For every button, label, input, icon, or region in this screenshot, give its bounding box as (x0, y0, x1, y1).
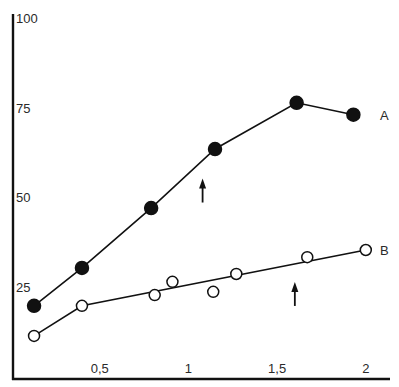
data-point-A (290, 96, 303, 109)
arrow-icon-A (199, 179, 206, 203)
arrow-icon-B (291, 282, 298, 306)
x-tick-label: 1 (185, 361, 192, 376)
x-tick-label: 2 (362, 361, 369, 376)
data-point-A (347, 108, 360, 121)
y-tick-label: 75 (16, 101, 30, 116)
data-point-A (145, 202, 158, 215)
data-point-B (302, 252, 313, 263)
data-point-B (76, 300, 87, 311)
data-point-A (75, 261, 88, 274)
y-tick-label: 25 (16, 280, 30, 295)
data-point-B (167, 276, 178, 287)
chart: 255075100 0,511,52 AB (0, 0, 399, 387)
y-tick-label: 50 (16, 190, 30, 205)
x-tick-label: 1,5 (268, 361, 286, 376)
data-point-B (149, 290, 160, 301)
data-point-B (208, 286, 219, 297)
x-tick-label: 0,5 (91, 361, 109, 376)
data-point-B (231, 268, 242, 279)
series-label-A: A (380, 108, 389, 123)
data-point-B (29, 330, 40, 341)
y-tick-label: 100 (16, 11, 38, 26)
data-point-A (209, 143, 222, 156)
data-point-A (28, 299, 41, 312)
data-point-B (360, 244, 371, 255)
series-line-A (34, 103, 353, 306)
series-label-B: B (380, 243, 389, 258)
